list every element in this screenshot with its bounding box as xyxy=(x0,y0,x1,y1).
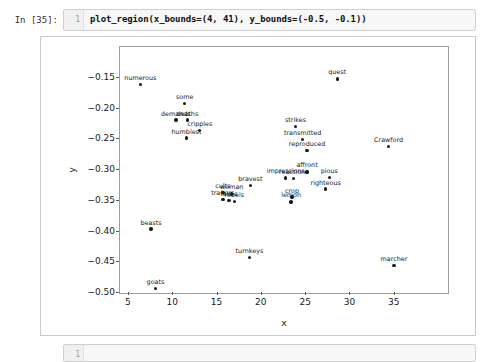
scatter-point-label: numerous xyxy=(124,74,156,82)
scatter-point-label: Crawford xyxy=(374,136,403,144)
scatter-point-label: lemon xyxy=(281,191,301,199)
code-line-number: 1 xyxy=(64,10,84,30)
scatter-point xyxy=(324,187,327,190)
scatter-point xyxy=(305,149,308,152)
scatter-point-label: deaths xyxy=(176,110,198,118)
scatter-point xyxy=(284,176,287,179)
scatter-point xyxy=(227,199,230,202)
x-tick-label: 25 xyxy=(299,297,310,307)
scatter-point-label: transmitted xyxy=(284,129,321,137)
y-tick-label: −0.25 xyxy=(87,133,115,143)
scatter-point-label: quest xyxy=(328,68,346,76)
scatter-point xyxy=(248,256,251,259)
execution-count-prompt-next xyxy=(6,344,63,349)
scatter-point-label: marcher xyxy=(381,255,408,263)
y-tick-label: −0.30 xyxy=(87,164,115,174)
code-editor-area-next[interactable]: 1 xyxy=(63,344,476,362)
code-cell-next[interactable]: 1 xyxy=(6,344,476,362)
scatter-point xyxy=(292,177,295,180)
scatter-point-label: affront xyxy=(296,161,317,169)
scatter-point-label: reproduced xyxy=(289,140,325,148)
cell-output-figure: y −0.15−0.20−0.25−0.30−0.35−0.40−0.45−0.… xyxy=(40,36,476,336)
scatter-point-label: beasts xyxy=(140,219,161,227)
scatter-point xyxy=(336,77,339,80)
x-tick-mark xyxy=(394,292,395,295)
x-tick-label: 30 xyxy=(344,297,355,307)
y-tick-label: −0.40 xyxy=(87,226,115,236)
scatter-point xyxy=(249,184,252,187)
y-tick-label: −0.45 xyxy=(87,256,115,266)
scatter-point xyxy=(174,118,177,121)
y-tick-label: −0.35 xyxy=(87,195,115,205)
scatter-point xyxy=(305,170,308,173)
scatter-point xyxy=(154,287,157,290)
scatter-point xyxy=(392,264,395,267)
scatter-point-label: strikes xyxy=(285,116,306,124)
y-tick-label: −0.15 xyxy=(87,72,115,82)
x-tick-label: 15 xyxy=(211,297,222,307)
x-tick-mark xyxy=(172,292,173,295)
scatter-point-label: some xyxy=(176,93,193,101)
x-tick-mark xyxy=(217,292,218,295)
scatter-point xyxy=(183,102,186,105)
scatter-point-label: rebels xyxy=(225,191,245,199)
scatter-point xyxy=(139,83,142,86)
scatter-point xyxy=(149,227,152,230)
code-cell-input[interactable]: In [35]: 1 plot_region(x_bounds=(4, 41),… xyxy=(6,9,476,31)
x-tick-label: 35 xyxy=(388,297,399,307)
scatter-point xyxy=(289,200,292,203)
scatter-point-label: pious xyxy=(321,167,338,175)
scatter-point-label: humblest xyxy=(172,128,202,136)
execution-count-prompt: In [35]: xyxy=(6,9,63,26)
scatter-point-label: righteous xyxy=(311,179,341,187)
x-axis-label: x xyxy=(119,317,449,328)
scatter-point xyxy=(233,200,236,203)
x-tick-mark xyxy=(349,292,350,295)
scatter-figure: y −0.15−0.20−0.25−0.30−0.35−0.40−0.45−0.… xyxy=(41,37,475,335)
scatter-point-label: turnkeys xyxy=(236,247,264,255)
y-tick-label: −0.50 xyxy=(87,287,115,297)
scatter-point-label: goats xyxy=(147,278,165,286)
x-tick-mark xyxy=(261,292,262,295)
x-tick-label: 5 xyxy=(125,297,131,307)
scatter-point xyxy=(185,136,188,139)
scatter-point xyxy=(387,145,390,148)
x-tick-label: 20 xyxy=(255,297,266,307)
code-text-next[interactable] xyxy=(84,345,475,361)
y-axis-label: y xyxy=(66,167,77,173)
x-tick-label: 10 xyxy=(166,297,177,307)
code-text[interactable]: plot_region(x_bounds=(4, 41), y_bounds=(… xyxy=(84,10,475,30)
scatter-point xyxy=(294,125,297,128)
scatter-point-label: bravest xyxy=(238,175,262,183)
code-editor-area[interactable]: 1 plot_region(x_bounds=(4, 41), y_bounds… xyxy=(63,9,476,31)
code-line-number-next: 1 xyxy=(64,345,84,361)
plot-axes-area: numeroussomedemandsdeathscrippleshumbles… xyxy=(119,46,449,294)
x-tick-mark xyxy=(305,292,306,295)
y-tick-label: −0.20 xyxy=(87,103,115,113)
x-tick-mark xyxy=(128,292,129,295)
